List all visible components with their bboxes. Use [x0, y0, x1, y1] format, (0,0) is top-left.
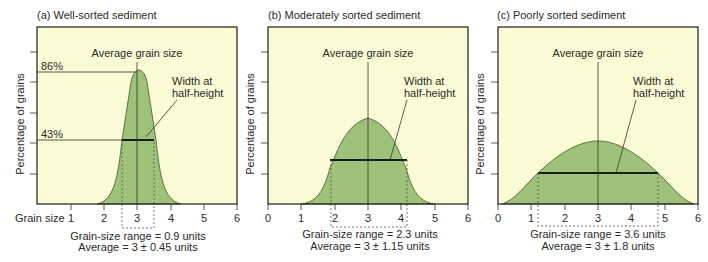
svg-text:2: 2	[332, 212, 338, 224]
average-text: Average = 3 ± 1.8 units	[541, 240, 655, 252]
svg-text:3: 3	[595, 212, 601, 224]
width-label-line1: Width at	[404, 75, 444, 87]
x-ticks	[498, 204, 698, 210]
svg-text:2: 2	[562, 212, 568, 224]
y-ticks	[30, 52, 37, 174]
range-text: Grain-size range = 2.3 units	[302, 228, 438, 240]
width-label-line1: Width at	[633, 75, 673, 87]
svg-text:1: 1	[298, 212, 304, 224]
range-text: Grain-size range = 3.6 units	[530, 228, 666, 240]
svg-text:4: 4	[168, 212, 174, 224]
x-axis-label: Grain size	[15, 212, 65, 224]
x-tick-labels: 0 1 2 3 4 5 6	[495, 212, 701, 224]
svg-text:4: 4	[628, 212, 634, 224]
average-text: Average = 3 ± 1.15 units	[310, 240, 430, 252]
panel-well-sorted: (a) Well-sorted sediment Grain size	[14, 9, 240, 253]
svg-text:4: 4	[398, 212, 404, 224]
width-label-line1: Width at	[172, 75, 212, 87]
svg-text:5: 5	[201, 212, 207, 224]
y-ticks	[261, 52, 268, 174]
average-text: Average = 3 ± 0.45 units	[78, 241, 198, 253]
panel-moderately-sorted: (b) Moderately sorted sediment 0 1 2 3 4…	[244, 9, 471, 252]
svg-text:6: 6	[695, 212, 701, 224]
y-axis-label: Percentage of grains	[14, 73, 26, 175]
x-ticks	[268, 204, 468, 210]
width-label-line2: half-height	[404, 87, 455, 99]
svg-text:0: 0	[495, 212, 501, 224]
peak-percent-label: 86%	[41, 60, 63, 72]
width-label-line2: half-height	[172, 87, 223, 99]
svg-text:1: 1	[528, 212, 534, 224]
svg-text:3: 3	[365, 212, 371, 224]
panel-title: (c) Poorly sorted sediment	[497, 9, 625, 21]
x-tick-labels: 0 1 2 3 4 5 6	[265, 212, 471, 224]
y-axis-label: Percentage of grains	[474, 73, 486, 175]
y-ticks	[491, 52, 498, 174]
half-percent-label: 43%	[41, 128, 63, 140]
panel-poorly-sorted: (c) Poorly sorted sediment 0 1 2 3 4 5 6	[474, 9, 701, 252]
average-grain-size-label: Average grain size	[553, 47, 644, 59]
svg-text:6: 6	[465, 212, 471, 224]
panel-title: (a) Well-sorted sediment	[37, 9, 157, 21]
svg-text:5: 5	[432, 212, 438, 224]
y-axis-label: Percentage of grains	[244, 73, 256, 175]
svg-text:3: 3	[134, 212, 140, 224]
panel-title: (b) Moderately sorted sediment	[268, 9, 420, 21]
average-grain-size-label: Average grain size	[92, 47, 183, 59]
svg-text:0: 0	[265, 212, 271, 224]
svg-text:2: 2	[101, 212, 107, 224]
svg-text:5: 5	[662, 212, 668, 224]
average-grain-size-label: Average grain size	[323, 47, 414, 59]
width-label-line2: half-height	[633, 87, 684, 99]
svg-text:1: 1	[68, 212, 74, 224]
sediment-sorting-figure: (a) Well-sorted sediment Grain size	[0, 0, 708, 262]
svg-text:6: 6	[234, 212, 240, 224]
